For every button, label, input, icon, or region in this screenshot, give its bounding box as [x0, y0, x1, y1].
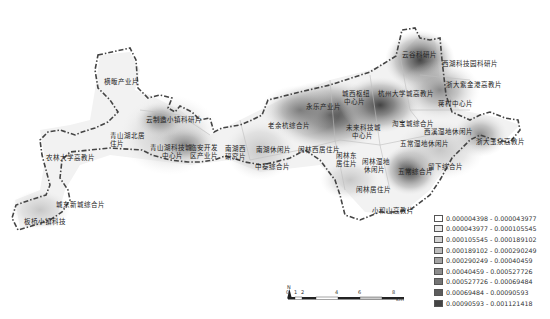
legend-label: 0.000290249 - 0.00040459 [446, 257, 532, 264]
region-label-xianlin-wet-2: 休闲片 [364, 166, 385, 174]
region-label-yongle: 永乐产业片 [306, 103, 341, 111]
scale-tick-1: 1 [294, 289, 297, 295]
legend-swatch [434, 300, 443, 307]
region-label-xianlin-west: 闲林西居住片 [298, 146, 340, 154]
region-label-qingshanhu-north-2: 住片 [110, 140, 124, 148]
legend-item: 0.000189102 - 0.000290249 [434, 245, 550, 256]
region-label-xianlin-wet: 闲林湿地 [362, 158, 390, 166]
scale-tick-4: 4 [335, 289, 338, 295]
legend-label: 0.000105545 - 0.000189102 [446, 236, 536, 243]
region-label-xihu-school: 西湖科技园科研片 [442, 60, 498, 68]
scale-tick-6: 6 [358, 289, 361, 295]
region-label-haobao: 淘宝城综合片 [392, 120, 434, 128]
region-label-lingan: 临安开发 [190, 144, 218, 152]
region-label-qingshanhu-tech: 青山湖科技城 [150, 144, 192, 152]
north-label: N [287, 284, 291, 290]
legend-label: 0.00069484 - 0.00090593 [446, 289, 528, 296]
legend-swatch [434, 268, 443, 275]
legend-item: 0.00069484 - 0.00090593 [434, 287, 550, 298]
density-legend: 0.000004398 - 0.000043977 0.000043977 - … [434, 213, 550, 308]
legend-label: 0.000189102 - 0.000290249 [446, 247, 536, 254]
legend-swatch [434, 225, 443, 232]
scale-tick-2: 2 [301, 289, 304, 295]
legend-label: 0.000004398 - 0.000043977 [446, 215, 536, 222]
region-label-zhongtai: 中泰综合片 [255, 163, 290, 171]
legend-swatch [434, 247, 443, 254]
region-label-nanhuxi-2: 研究片 [225, 153, 246, 161]
region-label-laoyu: 老余杭综合片 [268, 122, 310, 130]
legend-swatch [434, 257, 443, 264]
region-label-lingan-2: 区产业片 [190, 152, 218, 160]
legend-swatch [434, 278, 443, 285]
region-label-chengxi: 城西枢纽 [342, 90, 370, 98]
region-label-qingshanhu-tech-2: 中心片 [162, 152, 183, 160]
region-label-hengpan: 横畈产业片 [104, 78, 139, 86]
region-label-zju-yuquan: 浙大玉泉高教片 [476, 138, 525, 146]
region-label-xiaoheshan: 小和山高教片 [372, 207, 414, 215]
region-label-zju-zijingang: 浙大紫金港高教片 [446, 81, 502, 89]
region-label-jiangcun: 蒋村中心片 [438, 100, 473, 108]
scale-unit: km [396, 296, 404, 302]
legend-item: 0.000105545 - 0.000189102 [434, 234, 550, 245]
legend-item: 0.000043977 - 0.000105545 [434, 224, 550, 235]
legend-swatch [434, 236, 443, 243]
region-label-weilai: 未来科技城 [346, 124, 381, 132]
region-label-nanhu-leisure: 南湖休闲片 [256, 146, 291, 154]
region-label-xianlin-res: 闲林居住片 [356, 186, 391, 194]
region-label-banxi: 板桥小镇科技 [24, 218, 66, 226]
region-label-yungu: 云谷科研片 [402, 51, 437, 59]
legend-item: 0.00090593 - 0.001121418 [434, 298, 550, 309]
legend-item: 0.000004398 - 0.000043977 [434, 213, 550, 224]
region-label-wuchang-wet: 五常湿地休闲片 [400, 140, 449, 148]
region-label-qingshanhu-north: 青山湖北居 [110, 132, 145, 140]
legend-swatch [434, 215, 443, 222]
region-label-hzu: 杭州大学城高教片 [378, 90, 434, 98]
region-label-xianlin-east-2: 居住片 [336, 160, 357, 168]
region-label-liuxia: 留下综合片 [428, 163, 463, 171]
legend-item: 0.000290249 - 0.00040459 [434, 255, 550, 266]
legend-label: 0.00040459 - 0.000527726 [446, 268, 532, 275]
legend-swatch [434, 289, 443, 296]
region-label-nonglin: 农林大学高教片 [46, 154, 95, 162]
region-label-chengdong: 城东新城综合片 [56, 201, 105, 209]
region-label-yunzhi: 云制造小镇科研片 [146, 116, 202, 124]
legend-item: 0.000527726 - 0.00069484 [434, 277, 550, 288]
legend-label: 0.000043977 - 0.000105545 [446, 225, 536, 232]
region-label-xianlin-east: 闲林东 [336, 152, 357, 160]
legend-label: 0.000527726 - 0.00069484 [446, 278, 532, 285]
scale-tick-8: 8 [392, 289, 395, 295]
region-label-chengxi-2: 中心片 [344, 98, 365, 106]
region-label-xixi-wet: 西溪湿地休闲片 [424, 128, 473, 136]
region-label-weilai-2: 中心片 [352, 132, 373, 140]
region-label-nanhuxi: 南湖西 [225, 145, 246, 153]
legend-item: 0.00040459 - 0.000527726 [434, 266, 550, 277]
legend-label: 0.00090593 - 0.001121418 [446, 300, 532, 307]
scale-bar [288, 297, 404, 300]
